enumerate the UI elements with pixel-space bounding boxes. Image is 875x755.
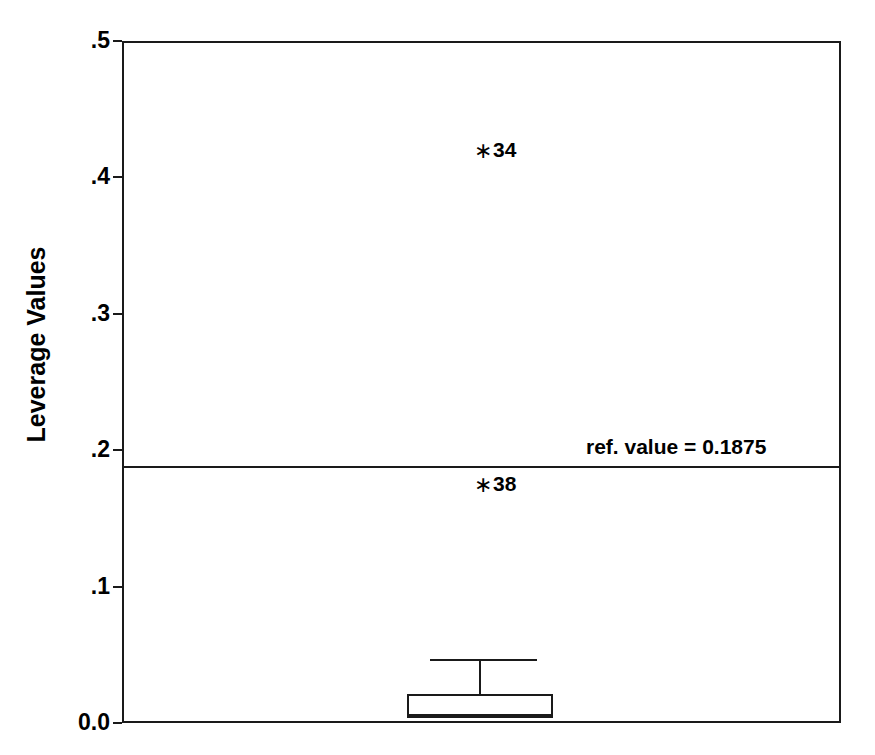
asterisk-icon: ∗ [474,138,492,163]
reference-line [122,466,841,468]
asterisk-icon: ∗ [474,472,492,497]
y-tick-label-0p0: 0.0 [50,711,110,734]
y-tick-label-p4: .4 [50,165,110,188]
y-tick-label-p5: .5 [50,29,110,52]
y-tick-mark [113,40,122,42]
whisker-line-upper [479,660,481,694]
outlier-point-34: ∗34 [474,139,516,162]
y-axis-tick-labels: .5.4.3.2.10.0 [48,0,110,755]
y-tick-mark [113,176,122,178]
y-tick-mark [113,722,122,724]
y-tick-mark [113,586,122,588]
reference-line-label: ref. value = 0.1875 [586,435,766,459]
outlier-label: 38 [493,472,516,495]
y-tick-mark [113,313,122,315]
median-line [407,714,553,716]
y-tick-label-p1: .1 [50,575,110,598]
y-tick-mark [113,449,122,451]
boxplot-chart: Leverage Values .5.4.3.2.10.0 ref. value… [0,0,875,755]
y-tick-label-p2: .2 [50,438,110,461]
y-tick-label-p3: .3 [50,302,110,325]
whisker-cap-upper [430,659,537,661]
outlier-point-38: ∗38 [474,473,516,496]
y-axis-title: Leverage Values [22,225,51,465]
outlier-label: 34 [493,138,516,161]
